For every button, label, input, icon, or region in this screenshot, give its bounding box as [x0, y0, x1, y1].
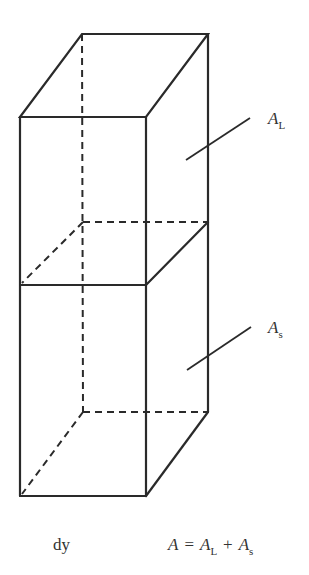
- height-label: dy: [53, 535, 71, 554]
- upper-area-label: AL: [267, 109, 285, 131]
- lower-area-leader: [187, 327, 251, 370]
- visible-edges: [20, 34, 208, 496]
- lower-area-label: As: [267, 318, 283, 340]
- hidden-edges: [22, 34, 208, 494]
- upper-area-leader: [186, 118, 250, 160]
- prism-diagram: AL As dy A = AL + As: [0, 0, 309, 575]
- area-equation: A = AL + As: [167, 535, 253, 558]
